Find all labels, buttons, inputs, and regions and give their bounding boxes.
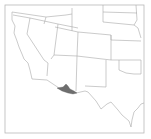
map-canvas <box>0 0 151 139</box>
